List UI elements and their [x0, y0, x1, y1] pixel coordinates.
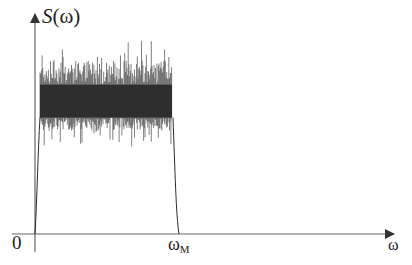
y-axis-label: S(ω): [42, 4, 80, 29]
spectrum-chart: [0, 0, 412, 265]
noise-spectrum: [35, 41, 179, 234]
x-axis-label: ω: [388, 236, 399, 254]
origin-label: 0: [12, 232, 22, 254]
omega-m-label: ωМ: [168, 234, 190, 255]
